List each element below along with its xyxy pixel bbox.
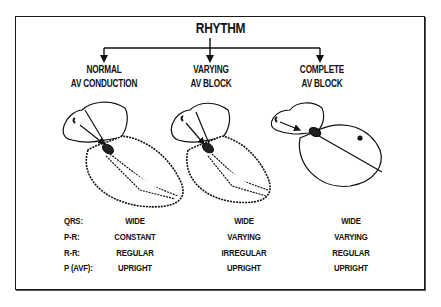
varying-block-heart-icon	[171, 103, 270, 202]
row-label-p-avf: P (AVF):	[64, 262, 93, 273]
row-label-qrs: QRS:	[64, 215, 83, 226]
cell-varying-p-avf: UPRIGHT	[207, 262, 281, 273]
heart-illustrations	[0, 0, 441, 307]
row-label-pr: P-R:	[64, 231, 79, 242]
cell-complete-p-avf: UPRIGHT	[314, 262, 388, 273]
cell-normal-p-avf: UPRIGHT	[98, 262, 172, 273]
cell-complete-qrs: WIDE	[314, 215, 388, 226]
cell-normal-qrs: WIDE	[98, 215, 172, 226]
cell-varying-qrs: WIDE	[207, 215, 281, 226]
row-label-rr: R-R:	[64, 247, 80, 258]
cell-complete-pr: VARYING	[314, 231, 388, 242]
normal-heart-icon	[63, 102, 183, 207]
complete-block-heart-icon	[271, 103, 382, 187]
cell-normal-pr: CONSTANT	[98, 231, 172, 242]
cell-varying-rr: IRREGULAR	[207, 247, 281, 258]
cell-complete-rr: REGULAR	[314, 247, 388, 258]
cell-varying-pr: VARYING	[207, 231, 281, 242]
cell-normal-rr: REGULAR	[98, 247, 172, 258]
